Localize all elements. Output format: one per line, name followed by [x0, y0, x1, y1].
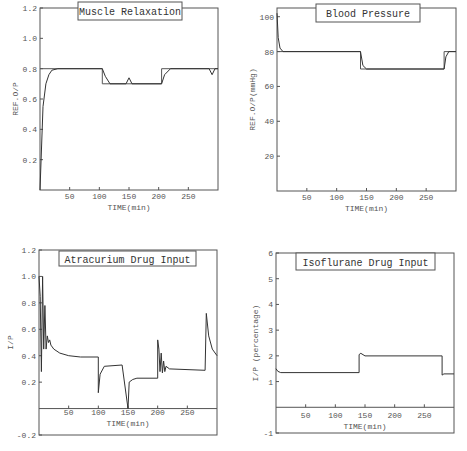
- y-tick-label: 0.4: [23, 125, 38, 134]
- y-tick-label: 2: [268, 352, 273, 361]
- x-tick-label: 50: [65, 192, 75, 201]
- series-output-line: [40, 69, 218, 190]
- y-tick-label: 1.2: [22, 246, 37, 255]
- x-tick-label: 100: [92, 192, 107, 201]
- x-tick-label: 50: [301, 411, 311, 420]
- x-tick-label: 150: [358, 411, 373, 420]
- y-tick-label: 100: [260, 13, 275, 22]
- y-tick-label: 5: [268, 275, 273, 284]
- y-tick-label: 0.6: [23, 95, 38, 104]
- x-axis-label: TIME(min): [343, 422, 386, 431]
- y-tick-label: -1: [263, 429, 273, 438]
- x-axis-label: TIME(min): [345, 204, 388, 213]
- x-tick-label: 250: [417, 411, 432, 420]
- plot-frame: [40, 8, 218, 190]
- y-tick-label: 0.8: [23, 65, 38, 74]
- x-tick-label: 250: [419, 193, 434, 202]
- y-tick-label: 80: [264, 48, 274, 57]
- x-tick-label: 200: [387, 411, 402, 420]
- x-tick-label: 100: [328, 411, 343, 420]
- x-tick-label: 150: [121, 408, 136, 417]
- x-tick-label: 50: [64, 408, 74, 417]
- chart-isoflurane-drug-input: -112345650100150200250TIME(min)I/P (perc…: [251, 249, 454, 438]
- y-tick-label: 1.0: [22, 272, 37, 281]
- y-tick-label: 40: [264, 117, 274, 126]
- chart-title: Blood Pressure: [326, 9, 410, 20]
- chart-canvas: 0.20.40.60.81.01.250100150200250TIME(min…: [0, 0, 467, 451]
- chart-title: Muscle Relaxation: [79, 7, 181, 18]
- y-tick-label: 1.2: [23, 4, 38, 13]
- series-reference-line: [40, 69, 218, 84]
- y-tick-label: 1: [268, 378, 273, 387]
- x-tick-label: 100: [91, 408, 106, 417]
- y-tick-label: 0.2: [22, 378, 37, 387]
- y-tick-label: 4: [268, 300, 273, 309]
- y-axis-label: I/P (percentage): [251, 305, 260, 382]
- x-tick-label: 150: [122, 192, 137, 201]
- series-input-line: [39, 276, 217, 408]
- chart-atracurium-drug-input: -0.20.20.40.60.81.01.250100150200250TIME…: [6, 246, 217, 440]
- x-tick-label: 150: [359, 193, 374, 202]
- chart-blood-pressure: 2040608010050100150200250TIME(min)REF.O/…: [248, 4, 456, 213]
- x-tick-label: 200: [389, 193, 404, 202]
- chart-muscle-relaxation: 0.20.40.60.81.01.250100150200250TIME(min…: [11, 2, 218, 212]
- x-tick-label: 100: [329, 193, 344, 202]
- x-tick-label: 200: [151, 192, 166, 201]
- x-axis-label: TIME(min): [106, 419, 149, 428]
- plot-frame: [277, 8, 456, 191]
- y-axis-label: I/P: [6, 335, 15, 350]
- x-tick-label: 200: [150, 408, 165, 417]
- y-tick-label: 6: [268, 249, 273, 258]
- y-tick-label: -0.2: [17, 431, 36, 440]
- y-tick-label: 0.8: [22, 299, 37, 308]
- x-tick-label: 50: [302, 193, 312, 202]
- y-tick-label: 0.2: [23, 156, 38, 165]
- y-axis-label: REF.O/P(mmHg): [248, 68, 257, 130]
- series-reference-line: [277, 52, 456, 69]
- y-tick-label: 3: [268, 326, 273, 335]
- y-tick-label: 1.0: [23, 34, 38, 43]
- y-axis-label: REF.O/P: [11, 82, 20, 116]
- x-tick-label: 250: [181, 192, 196, 201]
- x-axis-label: TIME(min): [107, 203, 150, 212]
- y-tick-label: 20: [264, 152, 274, 161]
- y-tick-label: 60: [264, 82, 274, 91]
- series-input-line: [276, 353, 454, 375]
- x-tick-label: 250: [180, 408, 195, 417]
- chart-title: Atracurium Drug Input: [64, 255, 190, 266]
- chart-title: Isoflurane Drug Input: [302, 258, 428, 269]
- y-tick-label: 0.6: [22, 325, 37, 334]
- y-tick-label: 0.4: [22, 352, 37, 361]
